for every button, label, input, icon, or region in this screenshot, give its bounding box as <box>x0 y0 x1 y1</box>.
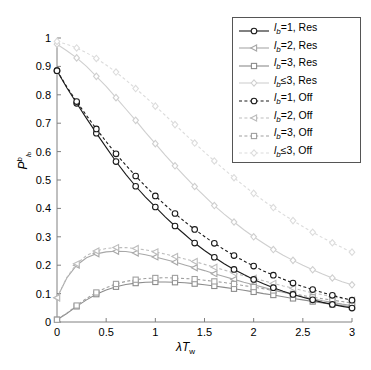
data-marker <box>330 240 336 246</box>
y-tick-label: 0.3 <box>36 231 51 243</box>
data-marker <box>349 297 355 303</box>
data-marker <box>191 259 197 265</box>
series-line <box>57 251 352 305</box>
legend-sample-square-icon <box>237 128 271 140</box>
legend-label-0: lb=1, Res <box>274 21 317 36</box>
data-marker <box>132 245 138 251</box>
legend-label-3: lb≤3, Res <box>274 74 317 89</box>
data-marker <box>172 259 178 265</box>
data-marker <box>251 234 257 240</box>
data-marker <box>349 282 355 288</box>
data-marker <box>330 293 336 299</box>
data-marker <box>251 98 257 104</box>
data-marker <box>74 303 79 308</box>
data-marker <box>251 190 257 196</box>
data-marker <box>153 204 159 210</box>
data-marker <box>113 159 119 165</box>
y-tick-label: 0.1 <box>36 288 51 300</box>
x-tick-label: 1.5 <box>197 326 212 338</box>
y-tick-label: 0.7 <box>36 117 51 129</box>
legend-item-7: lb≤3, Off <box>233 143 360 161</box>
legend-item-3: lb≤3, Res <box>233 73 360 91</box>
legend-sample-square-icon <box>237 58 271 70</box>
data-marker <box>251 263 257 269</box>
data-marker <box>113 245 119 251</box>
legend-label-1: lb=2, Res <box>274 39 317 54</box>
series-line <box>57 282 352 320</box>
chart-legend: lb=1, Reslb=2, Reslb=3, Reslb≤3, Reslb=1… <box>232 17 361 163</box>
data-marker <box>271 285 277 291</box>
data-marker <box>113 151 119 157</box>
data-marker <box>231 267 237 273</box>
legend-item-4: lb=1, Off <box>233 90 360 108</box>
legend-label-7: lb≤3, Off <box>274 144 312 159</box>
data-marker <box>172 253 178 259</box>
data-marker <box>251 28 257 34</box>
data-marker <box>192 227 198 233</box>
data-marker <box>191 265 197 271</box>
data-marker <box>251 284 256 289</box>
x-tick-label: 0.5 <box>99 326 114 338</box>
data-marker <box>330 302 336 308</box>
data-marker <box>271 272 277 278</box>
data-marker <box>113 281 118 286</box>
x-axis-label-sub: w <box>189 347 195 356</box>
data-marker <box>54 317 59 322</box>
data-marker <box>94 126 100 132</box>
data-marker <box>133 277 138 282</box>
data-marker <box>172 223 178 229</box>
legend-sample-triangle-left-icon <box>237 40 271 52</box>
legend-sample-circle-icon <box>237 93 271 105</box>
figure-canvas: 00.511.522.5300.10.20.30.40.50.60.70.80.… <box>0 0 371 370</box>
legend-sample-circle-icon <box>237 23 271 35</box>
data-marker <box>192 240 198 246</box>
data-marker <box>349 305 355 311</box>
x-tick-label: 3 <box>349 326 355 338</box>
data-marker <box>153 193 159 199</box>
data-marker <box>290 292 296 298</box>
data-marker <box>113 69 119 75</box>
data-marker <box>251 63 256 68</box>
data-marker <box>172 275 177 280</box>
data-marker <box>54 295 60 301</box>
legend-item-6: lb=3, Off <box>233 125 360 143</box>
legend-item-1: lb=2, Res <box>233 38 360 56</box>
data-marker <box>330 275 336 281</box>
y-axis-label-P: P <box>16 161 30 169</box>
data-marker <box>211 264 217 270</box>
data-marker <box>133 85 139 91</box>
data-marker <box>212 279 217 284</box>
legend-sample-triangle-left-icon <box>237 110 271 122</box>
legend-label-2: lb=3, Res <box>274 56 317 71</box>
data-marker <box>74 99 80 105</box>
data-marker <box>231 253 237 259</box>
data-marker <box>251 133 256 138</box>
x-tick-label: 1 <box>152 326 158 338</box>
data-marker <box>251 150 257 156</box>
data-marker <box>74 45 80 51</box>
legend-label-6: lb=3, Off <box>274 126 312 141</box>
data-marker <box>310 287 316 293</box>
data-marker <box>290 280 296 286</box>
data-marker <box>251 115 257 121</box>
y-axis-label-sup: b <box>15 157 24 161</box>
data-marker <box>211 271 217 277</box>
data-marker <box>271 246 277 252</box>
y-tick-label: 1 <box>45 32 51 44</box>
data-marker <box>310 229 316 235</box>
data-marker <box>310 267 316 273</box>
y-tick-label: 0 <box>45 316 51 328</box>
data-marker <box>192 277 197 282</box>
data-marker <box>310 297 316 303</box>
legend-sample-diamond-icon <box>237 145 271 157</box>
data-marker <box>94 290 99 295</box>
legend-item-5: lb=2, Off <box>233 108 360 126</box>
y-tick-label: 0.4 <box>36 202 51 214</box>
data-marker <box>251 80 257 86</box>
data-marker <box>94 55 100 61</box>
data-marker <box>231 281 236 286</box>
y-tick-label: 0.6 <box>36 146 51 158</box>
data-marker <box>251 277 257 283</box>
data-marker <box>153 275 158 280</box>
data-marker <box>212 241 218 247</box>
